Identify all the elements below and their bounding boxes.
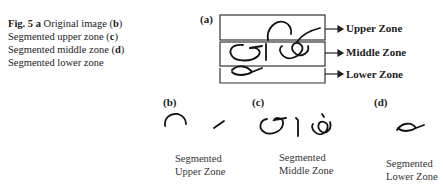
upper-zone-label: Upper Zone (346, 22, 402, 34)
segmented-middle-caption: Segmented Middle Zone (279, 151, 334, 177)
handwriting-middle-zone (260, 114, 330, 136)
segmented-upper-caption: Segmented Upper Zone (175, 152, 225, 178)
handwriting-original (230, 22, 320, 75)
segmented-lower-caption: Segmented Lower Zone (386, 157, 438, 183)
middle-zone-label: Middle Zone (346, 46, 406, 58)
handwriting-lower-zone (397, 124, 424, 131)
zone-arrows (325, 26, 343, 77)
panel-c-label: (c) (252, 96, 264, 108)
panel-d-label: (d) (374, 96, 387, 108)
panel-b-label: (b) (163, 96, 176, 108)
handwriting-upper-zone (165, 114, 224, 128)
lower-zone-label: Lower Zone (346, 68, 403, 80)
